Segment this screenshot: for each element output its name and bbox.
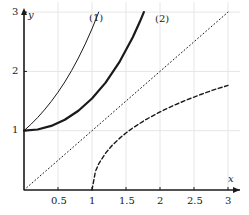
y-tick-label-2: 2 [12,66,18,76]
y-tick-label-3: 3 [12,7,18,17]
x-tick-label-1point5: 1.5 [119,196,135,206]
figure-canvas: 3 2 1 0.5 1 1.5 2 2.5 3 y x (1) (2) [0,0,249,215]
curve-annotation-1: (1) [89,13,103,23]
x-tick-label-2: 2 [157,196,163,206]
axis-lines [21,8,240,193]
x-tick-label-2point5: 2.5 [187,196,203,206]
chart-plot-area [0,0,249,215]
x-tick-label-0point5: 0.5 [51,196,67,206]
curve-annotation-2: (2) [155,14,169,24]
x-tick-label-3: 3 [225,196,231,206]
x-axis-label: x [228,174,234,184]
x-tick-label-1: 1 [89,196,95,206]
y-axis-label: y [28,10,34,20]
y-tick-label-1: 1 [12,125,18,135]
